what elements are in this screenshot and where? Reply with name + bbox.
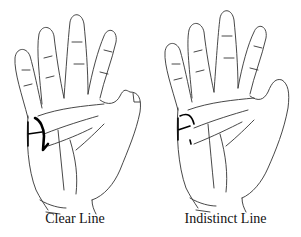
caption-clear-line: Clear Line bbox=[0, 211, 150, 227]
palm-hand-icon bbox=[150, 0, 301, 237]
figure-clear-line: Clear Line bbox=[0, 0, 150, 237]
caption-indistinct-line: Indistinct Line bbox=[150, 211, 301, 227]
figure-indistinct-line: Indistinct Line bbox=[150, 0, 301, 237]
palm-hand-icon bbox=[0, 0, 150, 237]
